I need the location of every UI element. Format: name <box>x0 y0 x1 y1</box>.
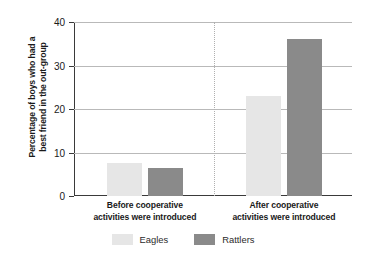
tick-mark <box>69 66 74 67</box>
y-tick-label: 20 <box>54 104 65 115</box>
group-divider <box>214 22 215 196</box>
legend-swatch-icon <box>194 234 215 245</box>
y-tick-label: 40 <box>54 17 65 28</box>
y-tick-label: 30 <box>54 60 65 71</box>
legend: EaglesRattlers <box>0 234 366 245</box>
y-axis-title: Percentage of boys who had a best friend… <box>21 0 55 197</box>
y-axis-title-line-2: best friend in the out-group <box>38 42 50 151</box>
tick-mark <box>69 22 74 23</box>
tick-mark <box>69 196 74 197</box>
legend-swatch-icon <box>112 234 133 245</box>
plot-area: 010203040 <box>74 22 352 196</box>
gridline <box>74 22 352 23</box>
y-axis-title-line-1: Percentage of boys who had a <box>27 37 39 158</box>
legend-item-rattlers[interactable]: Rattlers <box>194 234 254 245</box>
category-label-after: After cooperativeactivities were introdu… <box>194 200 366 223</box>
legend-label: Rattlers <box>222 234 254 245</box>
bar-eagles-after <box>246 96 281 196</box>
tick-mark <box>69 153 74 154</box>
y-tick-label: 10 <box>54 147 65 158</box>
bar-chart: Percentage of boys who had a best friend… <box>0 0 366 261</box>
category-label-line-1: After cooperative <box>194 200 366 212</box>
category-label-line-2: activities were introduced <box>194 212 366 224</box>
bar-rattlers-before <box>148 168 183 196</box>
bar-eagles-before <box>107 163 142 196</box>
legend-label: Eagles <box>140 234 169 245</box>
legend-item-eagles[interactable]: Eagles <box>112 234 169 245</box>
bar-rattlers-after <box>287 39 322 196</box>
tick-mark <box>69 109 74 110</box>
